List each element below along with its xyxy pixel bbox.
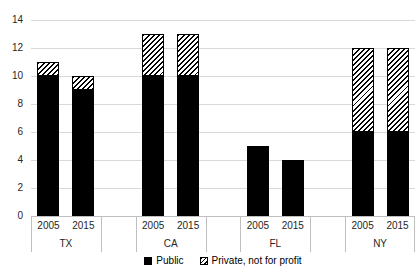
gridline xyxy=(31,20,415,21)
bar-segment-public xyxy=(142,76,164,216)
axis-divider xyxy=(206,217,207,252)
legend-label-public: Public xyxy=(156,255,183,267)
axis-divider xyxy=(240,217,241,252)
axis-divider xyxy=(345,217,346,252)
x-axis: 20052015TX20052015CA20052015FL20052015NY xyxy=(31,216,415,253)
y-tick-label: 8 xyxy=(0,98,23,110)
bar-CA-2015 xyxy=(177,34,199,216)
legend: Public Private, not for profit xyxy=(31,253,415,269)
bar-FL-2005 xyxy=(247,146,269,216)
bar-segment-public xyxy=(72,90,94,216)
stacked-bar-chart: 02468101214 20052015TX20052015CA20052015… xyxy=(0,0,420,273)
bar-segment-public xyxy=(387,132,409,216)
x-tick-year: 2005 xyxy=(136,218,171,234)
x-tick-year: 2015 xyxy=(171,218,206,234)
legend-item-public: Public xyxy=(144,255,183,267)
y-tick-label: 0 xyxy=(0,210,23,222)
legend-label-private: Private, not for profit xyxy=(212,255,302,267)
x-tick-year: 2015 xyxy=(66,218,101,234)
bar-segment-public xyxy=(282,160,304,216)
axis-divider xyxy=(136,217,137,252)
bar-CA-2005 xyxy=(142,34,164,216)
bar-TX-2015 xyxy=(72,76,94,216)
axis-divider xyxy=(310,217,311,252)
legend-item-private: Private, not for profit xyxy=(200,255,302,267)
bar-FL-2015 xyxy=(282,160,304,216)
bar-segment-private xyxy=(352,48,374,132)
bar-NY-2005 xyxy=(352,48,374,216)
legend-swatch-private-icon xyxy=(200,257,208,265)
x-tick-year: 2005 xyxy=(31,218,66,234)
bar-TX-2005 xyxy=(37,62,59,216)
x-group-label: TX xyxy=(31,236,101,251)
bar-segment-public xyxy=(352,132,374,216)
plot-area xyxy=(31,20,415,217)
bar-segment-private xyxy=(72,76,94,90)
x-tick-year: 2005 xyxy=(345,218,380,234)
bar-segment-private xyxy=(387,48,409,132)
y-tick-label: 4 xyxy=(0,154,23,166)
bar-segment-private xyxy=(37,62,59,76)
x-group-label: NY xyxy=(345,236,415,251)
x-group-label: CA xyxy=(136,236,206,251)
x-tick-year: 2015 xyxy=(380,218,415,234)
bar-segment-public xyxy=(247,146,269,216)
y-tick-label: 14 xyxy=(0,14,23,26)
y-tick-label: 6 xyxy=(0,126,23,138)
x-tick-year: 2005 xyxy=(240,218,275,234)
axis-divider xyxy=(414,217,415,252)
legend-swatch-public-icon xyxy=(144,257,152,265)
bar-segment-public xyxy=(177,76,199,216)
axis-divider xyxy=(101,217,102,252)
axis-divider xyxy=(31,217,32,252)
x-tick-year: 2015 xyxy=(275,218,310,234)
bar-segment-private xyxy=(142,34,164,76)
bar-NY-2015 xyxy=(387,48,409,216)
y-tick-label: 12 xyxy=(0,42,23,54)
x-group-label: FL xyxy=(240,236,310,251)
y-tick-label: 2 xyxy=(0,182,23,194)
y-axis: 02468101214 xyxy=(0,20,26,230)
bar-segment-public xyxy=(37,76,59,216)
y-tick-label: 10 xyxy=(0,70,23,82)
bar-segment-private xyxy=(177,34,199,76)
